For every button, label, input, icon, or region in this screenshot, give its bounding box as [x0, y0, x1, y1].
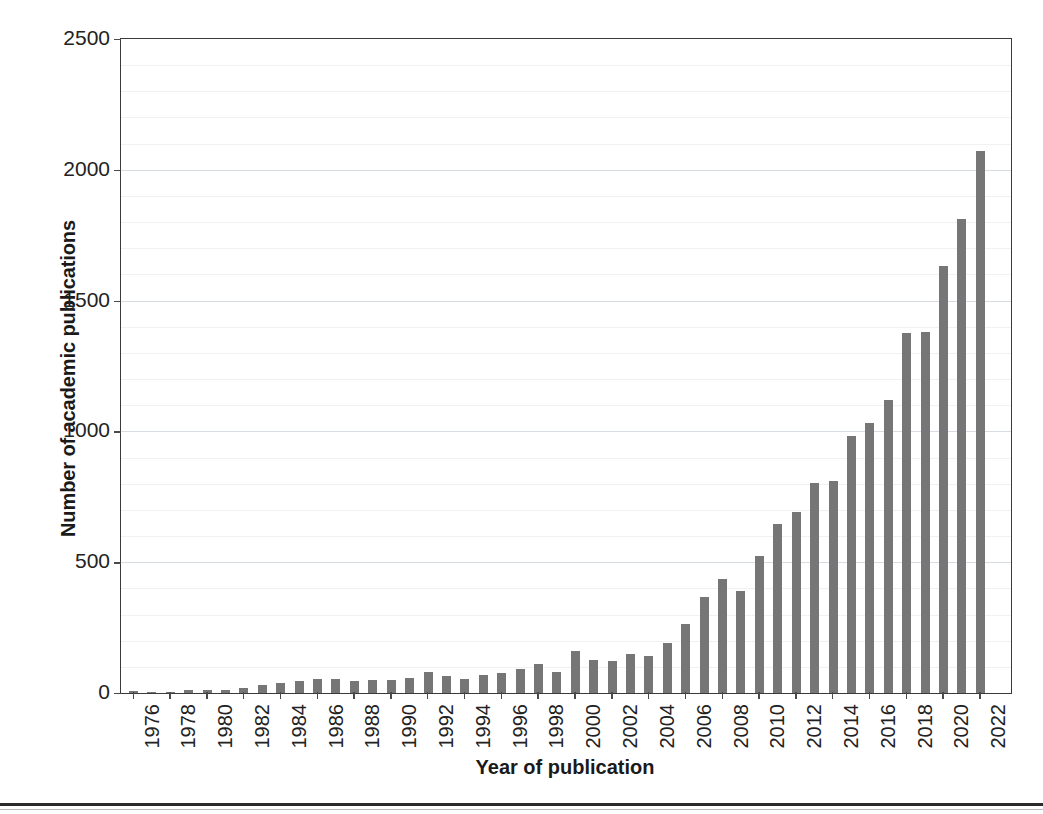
y-tick-label: 1000 [52, 418, 110, 442]
x-tick-label: 1978 [177, 704, 200, 749]
x-tick-label: 1998 [545, 704, 568, 749]
bar [405, 678, 414, 693]
x-tick-mark [758, 692, 759, 699]
x-tick-label: 2010 [766, 704, 789, 749]
x-tick-label: 1986 [325, 704, 348, 749]
bar [921, 332, 930, 693]
x-tick-mark [869, 692, 870, 699]
x-axis-title: Year of publication [120, 756, 1010, 779]
x-tick-mark [317, 692, 318, 699]
bar [902, 333, 911, 693]
x-tick-label: 2018 [914, 704, 937, 749]
x-tick-mark [243, 692, 244, 699]
bar [810, 483, 819, 693]
bar [424, 672, 433, 693]
y-tick-mark [114, 170, 121, 171]
y-tick-mark [114, 301, 121, 302]
x-tick-label: 1984 [288, 704, 311, 749]
x-tick-label: 1976 [141, 704, 164, 749]
bar [552, 672, 561, 693]
x-tick-label: 1988 [361, 704, 384, 749]
x-tick-mark [464, 692, 465, 699]
bar [516, 669, 525, 693]
bar [736, 591, 745, 693]
x-tick-mark [722, 692, 723, 699]
x-tick-label: 1994 [472, 704, 495, 749]
plot-area [120, 38, 1012, 694]
bar [460, 679, 469, 693]
y-tick-label: 0 [52, 680, 110, 704]
x-tick-label: 2002 [619, 704, 642, 749]
x-tick-mark [206, 692, 207, 699]
bar [571, 651, 580, 693]
bar [663, 643, 672, 693]
x-tick-mark [611, 692, 612, 699]
x-tick-mark [169, 692, 170, 699]
y-tick-mark [114, 431, 121, 432]
x-tick-label: 1992 [435, 704, 458, 749]
bar [792, 512, 801, 693]
bar [626, 654, 635, 693]
y-tick-label: 2500 [52, 26, 110, 50]
bar [847, 436, 856, 693]
x-tick-label: 2000 [582, 704, 605, 749]
x-tick-label: 2004 [656, 704, 679, 749]
bar [700, 597, 709, 693]
y-tick-label: 2000 [52, 157, 110, 181]
x-axis-tick-labels: 1976197819801982198419861988199019921994… [120, 692, 1010, 812]
bar [755, 556, 764, 693]
x-tick-mark [353, 692, 354, 699]
x-tick-mark [280, 692, 281, 699]
bar [589, 660, 598, 693]
x-tick-mark [906, 692, 907, 699]
bar [442, 676, 451, 693]
bar [534, 664, 543, 693]
bar [976, 151, 985, 693]
x-tick-label: 2020 [950, 704, 973, 749]
x-tick-mark [795, 692, 796, 699]
bar [884, 400, 893, 694]
x-tick-label: 1980 [214, 704, 237, 749]
x-tick-mark [537, 692, 538, 699]
x-tick-label: 1990 [398, 704, 421, 749]
x-tick-mark [390, 692, 391, 699]
bar-series [121, 39, 1011, 693]
y-axis-tick-labels: 05001000150020002500 [48, 0, 110, 814]
x-tick-mark [685, 692, 686, 699]
bar [865, 423, 874, 693]
bar [331, 679, 340, 693]
x-tick-mark [979, 692, 980, 699]
footer-rule-secondary [0, 809, 1043, 810]
bar [718, 579, 727, 693]
x-tick-mark [427, 692, 428, 699]
bar [773, 524, 782, 693]
bar [479, 675, 488, 693]
x-tick-mark [832, 692, 833, 699]
x-tick-label: 2022 [987, 704, 1010, 749]
bar [957, 219, 966, 693]
bar [313, 679, 322, 693]
x-tick-mark [501, 692, 502, 699]
x-tick-label: 2012 [803, 704, 826, 749]
y-tick-mark [114, 39, 121, 40]
bar [681, 624, 690, 693]
x-tick-label: 2006 [693, 704, 716, 749]
x-tick-label: 2014 [840, 704, 863, 749]
x-tick-label: 2016 [877, 704, 900, 749]
x-tick-mark [942, 692, 943, 699]
bar [644, 656, 653, 693]
chart-figure: Number of academic publications 05001000… [0, 0, 1043, 814]
x-tick-label: 1982 [251, 704, 274, 749]
bar [497, 673, 506, 693]
x-tick-mark [574, 692, 575, 699]
footer-rule [0, 803, 1043, 806]
y-tick-label: 1500 [52, 288, 110, 312]
bar [829, 481, 838, 693]
x-tick-label: 2008 [730, 704, 753, 749]
x-tick-label: 1996 [509, 704, 532, 749]
y-tick-label: 500 [52, 549, 110, 573]
y-tick-mark [114, 562, 121, 563]
bar [939, 266, 948, 693]
bar [608, 661, 617, 693]
x-tick-mark [648, 692, 649, 699]
